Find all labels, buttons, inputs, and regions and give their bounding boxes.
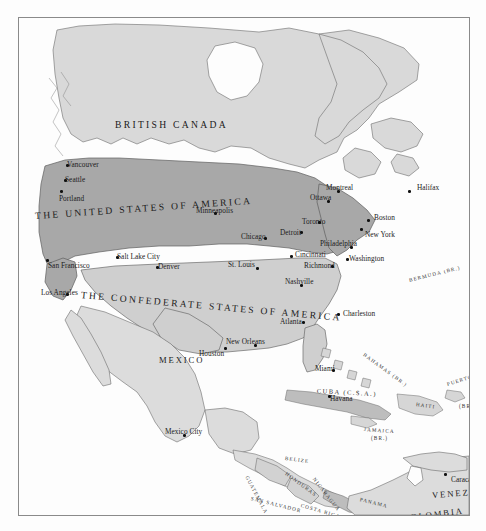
city-marker-dot	[156, 266, 159, 269]
city-marker-dot	[337, 313, 340, 316]
city-marker-dot	[256, 267, 259, 270]
city-marker-dot	[367, 219, 370, 222]
city-marker-dot	[331, 265, 334, 268]
city-marker-dot	[66, 293, 69, 296]
city-marker-dot	[346, 258, 349, 261]
city-marker-dot	[116, 256, 119, 259]
map-geography	[19, 18, 469, 515]
city-marker-dot	[337, 190, 340, 193]
city-marker-dot	[444, 473, 447, 476]
city-marker-dot	[46, 259, 49, 262]
city-marker-dot	[254, 344, 257, 347]
city-marker-dot	[332, 369, 335, 372]
city-marker-dot	[328, 395, 331, 398]
city-marker-dot	[66, 164, 69, 167]
city-marker-dot	[327, 200, 330, 203]
city-marker-dot	[183, 434, 186, 437]
city-marker-dot	[408, 190, 411, 193]
city-marker-dot	[300, 284, 303, 287]
city-marker-dot	[224, 347, 227, 350]
city-marker-dot	[60, 190, 63, 193]
city-marker-dot	[300, 231, 303, 234]
city-marker-dot	[318, 221, 321, 224]
city-marker-dot	[302, 321, 305, 324]
city-marker-dot	[264, 237, 267, 240]
city-marker-dot	[350, 246, 353, 249]
city-marker-dot	[64, 179, 67, 182]
map-root: BRITISH CANADATHE UNITED STATES OF AMERI…	[0, 0, 486, 531]
city-marker-dot	[360, 228, 363, 231]
city-marker-dot	[290, 255, 293, 258]
city-marker-dot	[214, 212, 217, 215]
map-frame: BRITISH CANADATHE UNITED STATES OF AMERI…	[18, 17, 470, 516]
